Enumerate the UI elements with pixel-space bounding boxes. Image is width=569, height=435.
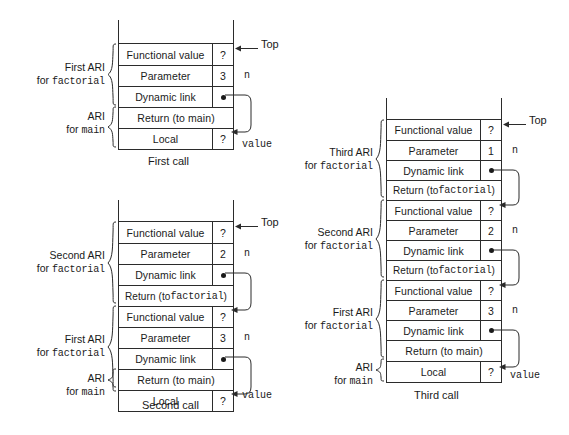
group-brace-ari-main [107,106,117,148]
return-prefix: Return (to [125,291,170,302]
stack-rail-left [118,200,119,222]
group-label-first-ari: First ARI for factorial [10,333,105,360]
row-label: Dynamic link [119,349,212,369]
stack-rail-right [501,98,502,120]
row-value: ? [480,120,501,140]
group-title: First ARI [10,333,105,346]
table-row: Functional value ? [387,120,501,140]
row-label: Parameter [119,66,212,86]
row-label: Return (to main) [119,108,233,128]
dynamic-link-arrow [225,270,261,318]
group-brace-ari-main [107,368,117,392]
diagram-caption-third-call: Third call [414,389,459,401]
side-label-value: value [242,139,272,150]
stack-rail-right [233,20,234,44]
top-label: Top [529,114,547,126]
return-prefix: Return (to [393,265,438,276]
row-label: Return (to main) [387,341,501,361]
row-label: Parameter [119,244,212,264]
group-subtitle: for factorial [278,319,373,333]
table-row: Functional value ? [119,306,233,327]
stack-rail-left [386,98,387,120]
table-row: Parameter 1 [387,140,501,160]
row-label: Dynamic link [387,321,480,340]
row-label: Return (to factorial) [387,181,501,200]
side-label-n: n [244,332,250,343]
group-brace-second-ari [375,199,385,279]
row-label: Dynamic link [119,87,212,107]
table-row: Dynamic link [387,240,501,260]
table-row: Functional value ? [387,280,501,300]
group-brace-second-ari [107,221,117,305]
group-title: ARI [10,372,105,385]
group-brace-ari-main [375,358,385,382]
row-label: Dynamic link [387,161,480,180]
top-label: Top [261,38,279,50]
row-value: 1 [480,141,501,160]
top-pointer-arrow [502,119,528,131]
top-pointer-arrow [234,43,260,55]
side-label-n: n [244,70,250,81]
side-label-n: n [512,305,518,316]
group-label-ari-main: ARI for main [10,110,105,137]
group-title: First ARI [278,306,373,319]
group-label-first-ari: First ARI for factorial [10,61,105,88]
row-value: ? [212,222,233,243]
group-subtitle: for factorial [10,74,105,88]
row-label: Local [387,362,480,382]
return-target: factorial [438,265,491,276]
table-row: Functional value ? [119,44,233,65]
group-label-ari-main: ARI for main [278,361,373,388]
table-row: Dynamic link [119,264,233,285]
group-label-second-ari: Second ARI for factorial [10,249,105,276]
row-value: 3 [212,66,233,86]
row-label: Local [119,129,212,149]
row-label: Functional value [119,307,212,327]
row-label: Functional value [387,201,480,220]
table-row: Functional value ? [387,200,501,220]
return-target: factorial [438,185,491,196]
diagram-caption-second-call: Second call [142,399,199,411]
side-label-n: n [512,145,518,156]
return-target: factorial [170,291,223,302]
group-subtitle: for main [10,385,105,399]
table-row: Local ? [387,361,501,382]
row-label: Functional value [387,281,480,300]
row-value: ? [212,44,233,65]
table-row: Return (to factorial) [387,260,501,280]
table-row: Return (to main) [387,340,501,361]
group-title: Second ARI [10,249,105,262]
group-brace-first-ari [107,43,117,106]
side-label-n: n [244,248,250,259]
group-subtitle: for factorial [278,159,373,173]
side-label-n: n [512,225,518,236]
row-label: Dynamic link [119,265,212,285]
table-row: Return (to main) [119,107,233,128]
group-title: ARI [10,110,105,123]
group-label-third-ari: Third ARI for factorial [278,146,373,173]
row-label: Parameter [119,328,212,348]
stack-rail-right [233,200,234,222]
row-value: 3 [212,328,233,348]
group-title: First ARI [10,61,105,74]
stack-table-third-call: Functional value ? Parameter 1 Dynamic l… [386,119,502,383]
row-label: Dynamic link [387,241,480,260]
table-row: Return (to factorial) [119,285,233,306]
dynamic-link-arrow [493,167,529,215]
table-row: Dynamic link [119,348,233,369]
group-brace-first-ari [375,279,385,360]
table-row: Dynamic link [119,86,233,107]
group-label-second-ari: Second ARI for factorial [278,226,373,253]
group-subtitle: for factorial [10,262,105,276]
group-brace-third-ari [375,119,385,199]
return-prefix: Return (to [393,185,438,196]
row-label: Return (to main) [119,370,233,390]
stack-rail-left [118,20,119,44]
table-row: Parameter 3 [119,65,233,86]
row-label: Return (to factorial) [387,261,501,280]
dynamic-link-arrow [225,92,261,140]
table-row: Functional value ? [119,222,233,243]
row-label: Parameter [387,141,480,160]
group-label-first-ari: First ARI for factorial [278,306,373,333]
group-title: Second ARI [278,226,373,239]
